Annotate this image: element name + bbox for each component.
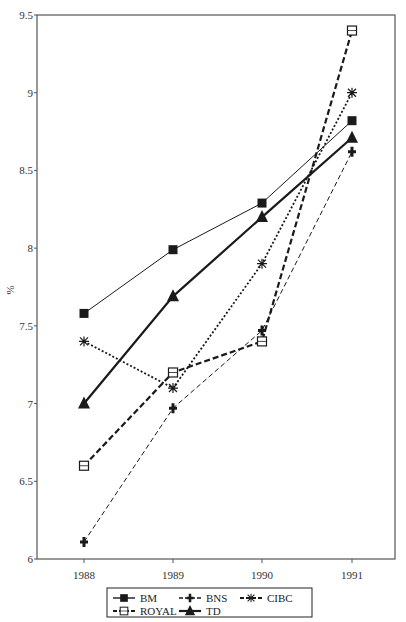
y-tick-label: 6 xyxy=(28,553,34,565)
x-tick-label: 1989 xyxy=(162,569,185,581)
plot-border xyxy=(37,15,395,559)
y-axis-label: % xyxy=(4,285,16,294)
series-td xyxy=(78,131,358,409)
series-bm xyxy=(80,116,357,318)
series-cibc xyxy=(79,88,357,393)
legend-label: CIBC xyxy=(267,592,293,604)
square-marker-icon xyxy=(80,309,89,318)
square-marker-icon xyxy=(120,594,128,602)
y-axis: 66.577.588.599.5 xyxy=(19,9,37,565)
legend-label: BNS xyxy=(206,592,227,604)
y-tick-label: 6.5 xyxy=(19,475,33,487)
legend-item-royal: ROYAL xyxy=(113,605,177,617)
series-layer xyxy=(78,26,358,547)
triangle-marker-icon xyxy=(346,131,358,143)
legend-label: ROYAL xyxy=(140,605,177,617)
y-tick-label: 7 xyxy=(28,398,34,410)
asterisk-marker-icon xyxy=(168,383,178,393)
legend: BMBNSCIBCROYALTD xyxy=(107,588,312,617)
y-tick-label: 9 xyxy=(28,87,34,99)
y-tick-label: 8 xyxy=(28,242,34,254)
series-line xyxy=(84,31,352,466)
square-marker-icon xyxy=(348,116,357,125)
y-tick-label: 7.5 xyxy=(19,320,33,332)
plus-marker-icon xyxy=(348,147,356,157)
series-royal xyxy=(80,26,357,470)
line-chart: 66.577.588.599.5 1988198919901991 % BMBN… xyxy=(0,0,406,622)
series-line xyxy=(84,138,352,404)
x-tick-label: 1991 xyxy=(341,569,363,581)
series-line xyxy=(84,93,352,388)
y-tick-label: 8.5 xyxy=(19,164,33,176)
square-marker-icon xyxy=(169,245,178,254)
triangle-marker-icon xyxy=(256,210,268,222)
asterisk-marker-icon xyxy=(79,336,89,346)
series-line xyxy=(84,121,352,314)
plot-frame xyxy=(37,15,395,559)
series-line xyxy=(84,152,352,542)
x-tick-label: 1990 xyxy=(251,569,274,581)
series-bns xyxy=(80,147,356,547)
asterisk-marker-icon xyxy=(257,259,267,269)
asterisk-marker-icon xyxy=(347,88,357,98)
legend-label: TD xyxy=(206,605,221,617)
x-tick-label: 1988 xyxy=(73,569,96,581)
x-axis: 1988198919901991 xyxy=(73,559,363,581)
legend-label: BM xyxy=(140,592,157,604)
square-marker-icon xyxy=(258,199,267,208)
y-tick-label: 9.5 xyxy=(19,9,33,21)
asterisk-marker-icon xyxy=(247,594,256,603)
